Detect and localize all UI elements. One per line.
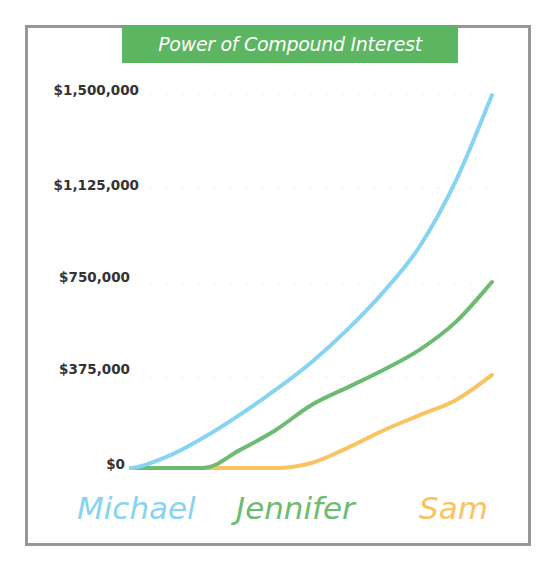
gridlines: [150, 94, 500, 378]
legend-sam: Sam: [419, 486, 488, 530]
y-axis-labels: $1,500,000 $1,125,000 $750,000 $375,000 …: [54, 82, 139, 472]
y-tick-0: $0: [106, 456, 125, 472]
y-tick-375000: $375,000: [59, 361, 130, 377]
series-line-jennifer: [131, 282, 492, 468]
y-tick-1500000: $1,500,000: [54, 82, 139, 98]
legend-michael: Michael: [77, 486, 196, 530]
series-lines: [131, 95, 492, 468]
y-tick-750000: $750,000: [59, 269, 130, 285]
series-line-sam: [131, 375, 492, 468]
y-tick-1125000: $1,125,000: [54, 177, 139, 193]
series-line-michael: [131, 95, 492, 468]
legend-jennifer: Jennifer: [236, 486, 355, 530]
